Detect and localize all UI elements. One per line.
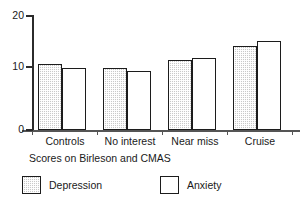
bar-depression-controls bbox=[38, 64, 62, 130]
bar-anxiety-controls bbox=[62, 68, 86, 130]
x-axis-label-cruise: Cruise bbox=[222, 135, 298, 147]
bar-chart-figure: 20 10 0 Controls No interest Near miss C bbox=[0, 0, 304, 207]
y-tick-label-0-wrap: 0 bbox=[0, 124, 24, 135]
legend-swatch-anxiety-icon bbox=[160, 176, 179, 194]
legend-label-anxiety: Anxiety bbox=[187, 179, 221, 191]
legend-label-depression: Depression bbox=[49, 179, 102, 191]
y-tick-label-20: 20 bbox=[0, 10, 24, 21]
legend-swatch-depression-icon bbox=[22, 176, 41, 194]
bar-depression-cruise bbox=[233, 46, 257, 130]
bar-depression-no-interest bbox=[103, 68, 127, 130]
y-tick-label-0: 0 bbox=[0, 124, 24, 135]
x-axis-title: Scores on Birleson and CMAS bbox=[29, 152, 171, 164]
y-tick-label-10: 10 bbox=[0, 61, 24, 72]
x-axis-line bbox=[22, 130, 300, 132]
bar-depression-near-miss bbox=[168, 60, 192, 130]
bar-anxiety-cruise bbox=[257, 41, 281, 130]
y-tick-label-20-wrap: 20 bbox=[0, 10, 24, 21]
plot-area bbox=[32, 16, 300, 130]
y-tick-label-10-wrap: 10 bbox=[0, 61, 24, 72]
chart-legend: Depression Anxiety bbox=[0, 176, 304, 200]
bar-anxiety-near-miss bbox=[192, 58, 216, 130]
bar-anxiety-no-interest bbox=[127, 71, 151, 130]
